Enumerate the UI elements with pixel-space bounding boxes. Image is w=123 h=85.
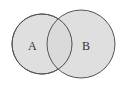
venn-diagram: A B	[0, 0, 123, 85]
set-a-label: A	[28, 39, 37, 53]
set-b-label: B	[82, 39, 90, 53]
set-b-circle	[47, 10, 115, 78]
